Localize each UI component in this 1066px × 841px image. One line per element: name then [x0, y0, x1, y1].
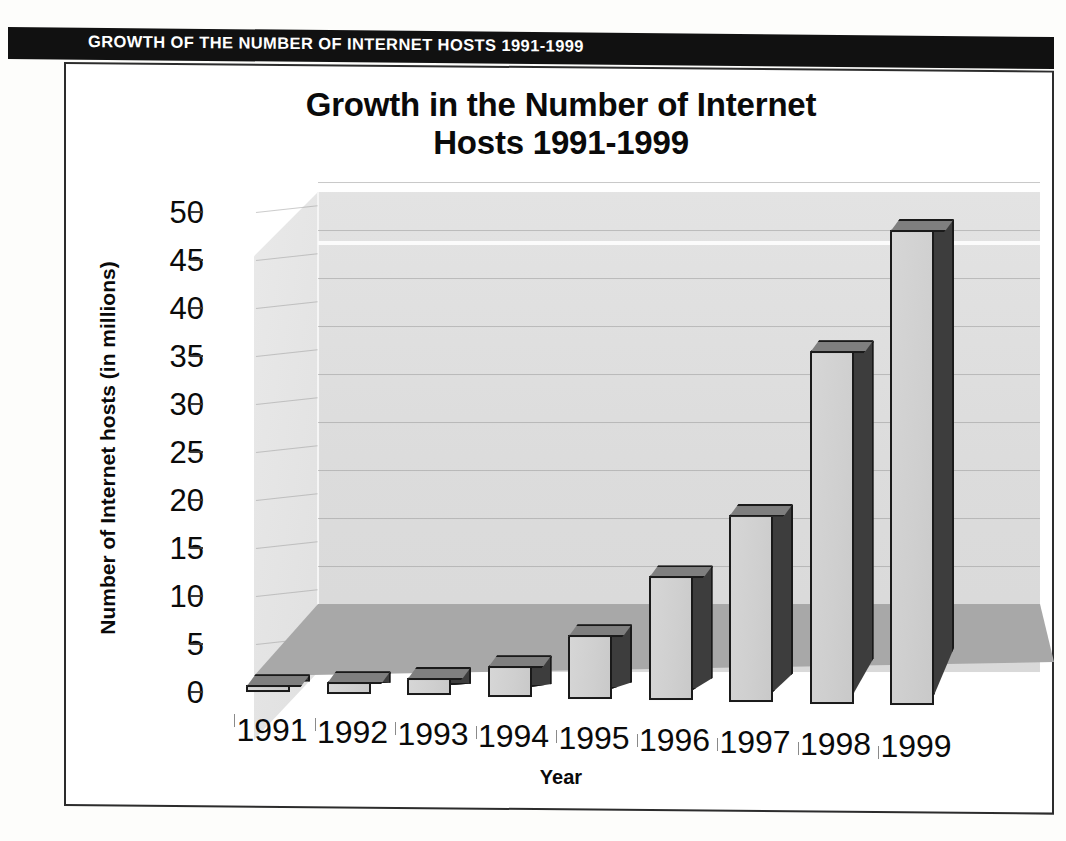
bar-side-face	[773, 505, 793, 692]
bar-front-face	[649, 576, 693, 700]
x-tick-label: 1993	[397, 716, 468, 753]
plot-wall-edge	[317, 192, 319, 672]
chart-frame: Growth in the Number of Internet Hosts 1…	[64, 62, 1054, 815]
x-tick-label: 1992	[317, 714, 388, 751]
gridline	[318, 182, 1040, 183]
x-tick-label: 1996	[639, 722, 710, 759]
bar-column	[407, 678, 451, 695]
plot-area	[160, 184, 1040, 704]
x-axis-tick-labels: 199119921993199419951996199719981999	[160, 712, 1060, 758]
bar-side-face	[693, 566, 713, 690]
x-tick-label: 1995	[558, 720, 629, 757]
bar-top-face	[327, 671, 391, 684]
bar-front-face	[890, 230, 934, 705]
bar-top-face	[649, 565, 713, 578]
bar-front-face	[729, 515, 773, 702]
chart-title-line2: Hosts 1991-1999	[96, 124, 1026, 162]
x-tick-label: 1999	[880, 728, 951, 765]
x-axis-label: Year	[96, 766, 1026, 789]
bar-column	[810, 351, 854, 703]
x-tick-label: 1994	[478, 718, 549, 755]
bar-top-face	[246, 674, 310, 687]
bar-top-face	[568, 624, 632, 637]
bar-front-face	[488, 666, 532, 697]
x-tick-label: 1991	[236, 712, 307, 749]
bar-column	[246, 685, 290, 692]
page-header-banner: GROWTH OF THE NUMBER OF INTERNET HOSTS 1…	[0, 27, 1066, 63]
bar-column	[488, 666, 532, 697]
bar-column	[890, 230, 934, 705]
bar-side-face	[934, 220, 954, 695]
x-tick-label: 1997	[719, 724, 790, 761]
scanned-page: GROWTH OF THE NUMBER OF INTERNET HOSTS 1…	[0, 0, 1066, 841]
chart-title-line1: Growth in the Number of Internet	[96, 86, 1026, 124]
bar-column	[649, 576, 693, 700]
bar-column	[568, 635, 612, 698]
bar-front-face	[407, 678, 451, 695]
chart-inner: Growth in the Number of Internet Hosts 1…	[66, 64, 1052, 804]
bar-top-face	[407, 667, 471, 680]
bar-top-face	[729, 504, 793, 517]
bar-front-face	[810, 351, 854, 703]
bar-top-face	[890, 219, 954, 232]
x-tick-label: 1998	[800, 726, 871, 763]
bar-top-face	[810, 340, 874, 353]
bar-side-face	[854, 341, 874, 693]
bar-front-face	[568, 635, 612, 698]
bar-top-face	[488, 655, 552, 668]
bar-column	[327, 682, 371, 694]
bar-column	[729, 515, 773, 702]
chart-title: Growth in the Number of Internet Hosts 1…	[96, 86, 1026, 162]
